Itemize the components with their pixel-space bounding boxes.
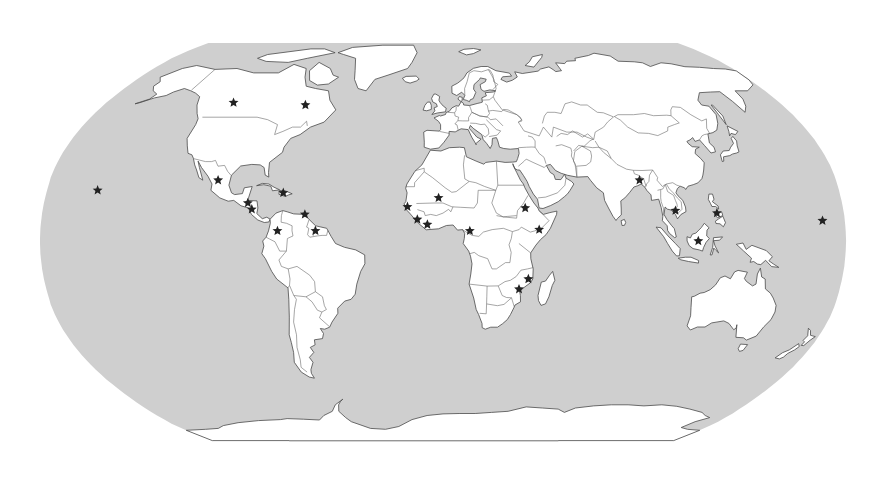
sri-lanka (621, 219, 626, 225)
ocean-background (40, 43, 846, 441)
map-canvas (0, 0, 886, 478)
world-map (0, 0, 886, 478)
ocean (40, 43, 846, 441)
